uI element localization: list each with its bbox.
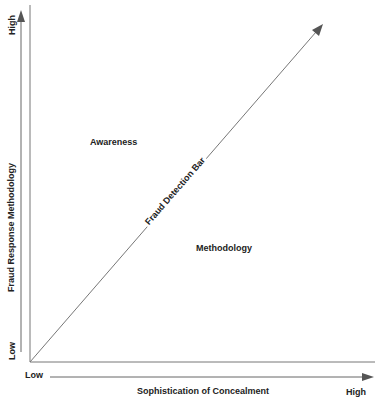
y-axis-high-label: High (7, 15, 17, 35)
x-axis-low-label: Low (25, 370, 43, 380)
y-axis-title: Fraud Response Methodology (6, 163, 16, 292)
y-arrowhead-icon (17, 10, 25, 22)
region-awareness-label: Awareness (90, 137, 137, 147)
x-axis-title: Sophistication of Concealment (137, 386, 269, 396)
x-axis-high-label: High (346, 387, 366, 397)
diagram-canvas (0, 0, 378, 402)
y-axis-low-label: Low (7, 342, 17, 360)
x-arrowhead-icon (362, 373, 374, 381)
region-methodology-label: Methodology (196, 243, 252, 253)
